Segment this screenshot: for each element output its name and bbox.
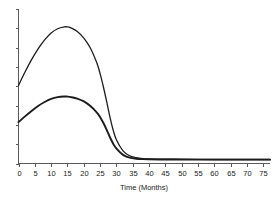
x-tick-label-50: 50	[178, 169, 186, 178]
x-axis-group: 051015202530354045505560657075 Time (Mon…	[17, 164, 270, 193]
x-tick-label-70: 70	[243, 169, 251, 178]
series-line-upper-curve	[19, 27, 271, 160]
x-tick-label-40: 40	[145, 169, 153, 178]
x-tick-label-10: 10	[47, 169, 55, 178]
x-tick-label-45: 45	[161, 169, 169, 178]
x-axis-title: Time (Months)	[120, 183, 169, 192]
x-axis-tick-labels: 051015202530354045505560657075	[17, 169, 267, 178]
data-series-group	[19, 27, 271, 160]
chart-container: 051015202530354045505560657075 Time (Mon…	[0, 0, 276, 206]
x-tick-label-20: 20	[80, 169, 88, 178]
x-tick-label-65: 65	[227, 169, 235, 178]
x-tick-label-25: 25	[96, 169, 104, 178]
x-tick-label-15: 15	[63, 169, 71, 178]
x-tick-label-35: 35	[129, 169, 137, 178]
x-tick-label-5: 5	[33, 169, 37, 178]
line-chart: 051015202530354045505560657075 Time (Mon…	[0, 0, 276, 206]
x-tick-label-30: 30	[112, 169, 120, 178]
x-tick-label-0: 0	[17, 169, 21, 178]
x-tick-label-75: 75	[259, 169, 267, 178]
series-line-lower-curve	[19, 96, 271, 159]
x-tick-label-55: 55	[194, 169, 202, 178]
y-axis-group	[16, 9, 19, 165]
x-tick-label-60: 60	[210, 169, 218, 178]
